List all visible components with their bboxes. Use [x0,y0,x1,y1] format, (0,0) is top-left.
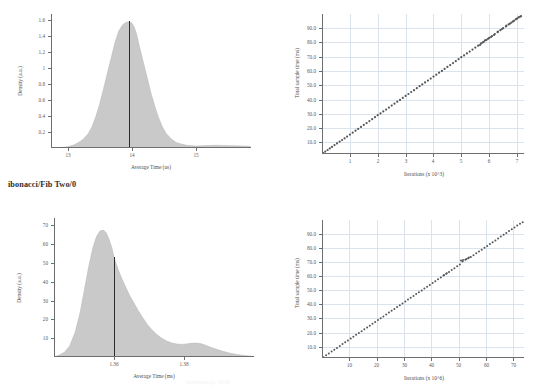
pdf-bottom-plot-area: 10 20 30 40 50 60 70 1.36 1.38 Average T… [54,218,254,357]
pdf-top-x-ticklabel: 13 [54,152,82,158]
iters-bottom-x-axis-title: Iterations (x 10^6) [364,375,484,381]
iters-bottom-points-layer [322,220,524,358]
pdf-top-y-axis [51,14,52,148]
iters-bottom-x-ticklabel: 10 [337,362,362,368]
iters-bottom-x-tick [486,358,487,361]
pdf-top-x-ticklabel: 14 [118,152,146,158]
pdf-bottom-mean-line [114,257,115,357]
pdf-top-mean-line [129,21,130,148]
iteration-times-chart-top: Total sample time (ms) [268,0,536,188]
pdf-top-y-ticklabel: 0.8 [21,81,45,87]
iters-top-y-ticklabel: 60.0 [288,68,316,74]
pdf-bottom-y-ticklabel: 10 [24,335,48,341]
iters-top-x-tick [350,154,351,157]
iters-bottom-x-ticklabel: 60 [474,362,499,368]
iters-top-x-ticklabel: 3 [394,158,418,164]
pdf-top-x-tick [68,148,69,151]
iters-top-plot-area: 10.0 20.0 30.0 40.0 50.0 60.0 70.0 80.0 … [322,14,524,154]
iters-bottom-y-ticklabel: 50.0 [288,287,316,293]
iters-bottom-x-tick [377,358,378,361]
pdf-top-x-tick [196,148,197,151]
pdf-top-plot-area: 0.2 0.4 0.6 0.8 1 1.2 1.4 1.6 13 14 15 [51,14,251,148]
clipped-footer-text: Iterations (x 10^6) [186,379,230,385]
iters-bottom-x-tick [459,358,460,361]
iters-top-x-tick [461,154,462,157]
pdf-bottom-x-ticklabel: 1.38 [170,361,198,367]
pdf-bottom-x-tick [114,357,115,360]
iters-bottom-y-axis [322,220,323,358]
pdf-bottom-y-ticklabel: 60 [24,241,48,247]
iters-bottom-y-ticklabel: 40.0 [288,301,316,307]
pdf-top-y-ticklabel: 1.4 [21,33,45,39]
pdf-bottom-y-ticklabel: 50 [24,260,48,266]
iters-bottom-y-ticklabel: 30.0 [288,315,316,321]
iters-bottom-y-ticklabel: 70.0 [288,259,316,265]
iters-bottom-scatter-svg [322,220,524,358]
pdf-bottom-x-tick [184,357,185,360]
iters-top-x-tick [489,154,490,157]
iters-bottom-x-tick [513,358,514,361]
iters-top-x-ticklabel: 5 [449,158,473,164]
pdf-bottom-x-axis [54,356,254,357]
iters-bottom-x-ticklabel: 70 [501,362,526,368]
iters-bottom-y-ticklabel: 80.0 [288,245,316,251]
iters-top-x-ticklabel: 7 [505,158,529,164]
benchmark-report-page: Density (a.u.) 0.2 0.4 0.6 0.8 1 1.2 1.4 [0,0,536,388]
iters-bottom-y-ticklabel: 10.0 [288,344,316,350]
iters-bottom-x-ticklabel: 40 [419,362,444,368]
pdf-bottom-y-ticklabel: 30 [24,298,48,304]
iters-bottom-x-ticklabel: 20 [364,362,389,368]
pdf-bottom-y-ticklabel: 70 [24,222,48,228]
iters-top-y-ticklabel: 50.0 [288,82,316,88]
section-heading: ibonacci/Fib Two/0 [8,180,188,189]
pdf-top-y-ticklabel: 0.4 [21,113,45,119]
iters-top-x-tick [517,154,518,157]
iters-top-x-tick [378,154,379,157]
pdf-top-y-ticklabel: 0.6 [21,97,45,103]
pdf-top-y-ticklabel: 1 [21,65,45,71]
iters-bottom-x-tick [431,358,432,361]
pdf-top-density-svg [51,14,251,148]
iters-bottom-y-ticklabel: 20.0 [288,330,316,336]
iters-top-y-ticklabel: 80.0 [288,39,316,45]
iters-top-x-ticklabel: 6 [477,158,501,164]
iters-top-x-ticklabel: 4 [421,158,445,164]
pdf-top-x-ticklabel: 15 [182,152,210,158]
pdf-top-density-path [51,22,251,148]
iters-top-x-axis [322,153,524,154]
iters-top-x-tick [433,154,434,157]
pdf-bottom-y-axis-title: Density (a.u.) [16,258,22,318]
iters-bottom-x-axis [322,357,524,358]
iters-top-scatter-svg [322,14,524,154]
pdf-chart-top: Density (a.u.) 0.2 0.4 0.6 0.8 1 1.2 1.4 [0,0,268,176]
pdf-top-y-ticklabel: 1.2 [21,49,45,55]
pdf-bottom-x-ticklabel: 1.36 [100,361,128,367]
pdf-top-density-area [51,14,251,148]
iteration-times-chart-bottom: Total sample time (ms) [268,200,536,388]
iters-bottom-y-axis-title: Total sample time (ms) [294,243,300,323]
pdf-bottom-y-axis [54,218,55,357]
pdf-top-x-tick [132,148,133,151]
iters-top-x-tick [406,154,407,157]
pdf-bottom-y-ticklabel: 20 [24,316,48,322]
pdf-bottom-density-path [54,230,254,357]
iters-top-y-ticklabel: 40.0 [288,97,316,103]
iters-top-x-ticklabel: 2 [366,158,390,164]
iters-top-y-axis [322,14,323,154]
iters-top-point-group [322,15,522,154]
iters-bottom-y-ticklabel: 90.0 [288,231,316,237]
iters-top-points-layer [322,14,524,154]
iters-top-y-ticklabel: 90.0 [288,25,316,31]
pdf-chart-bottom: Density (a.u.) 10 20 30 40 50 60 70 [0,200,268,388]
iters-top-x-ticklabel: 1 [338,158,362,164]
iters-bottom-x-ticklabel: 30 [392,362,417,368]
pdf-bottom-density-area [54,218,254,357]
pdf-bottom-y-ticklabel: 40 [24,279,48,285]
iters-bottom-x-tick [404,358,405,361]
iters-bottom-x-ticklabel: 50 [446,362,471,368]
iters-bottom-point-group [322,221,523,358]
pdf-top-y-ticklabel: 1.6 [21,17,45,23]
iters-bottom-y-ticklabel: 60.0 [288,273,316,279]
pdf-top-x-axis [51,147,251,148]
iters-top-x-axis-title: Iterations (x 10^3) [364,171,484,177]
